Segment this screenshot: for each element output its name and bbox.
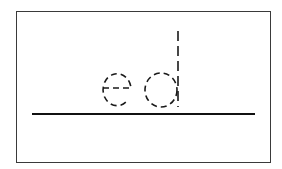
letter-d-dashed: [145, 31, 178, 107]
letter-e-dashed: [103, 74, 131, 106]
tracing-canvas: [0, 0, 282, 169]
